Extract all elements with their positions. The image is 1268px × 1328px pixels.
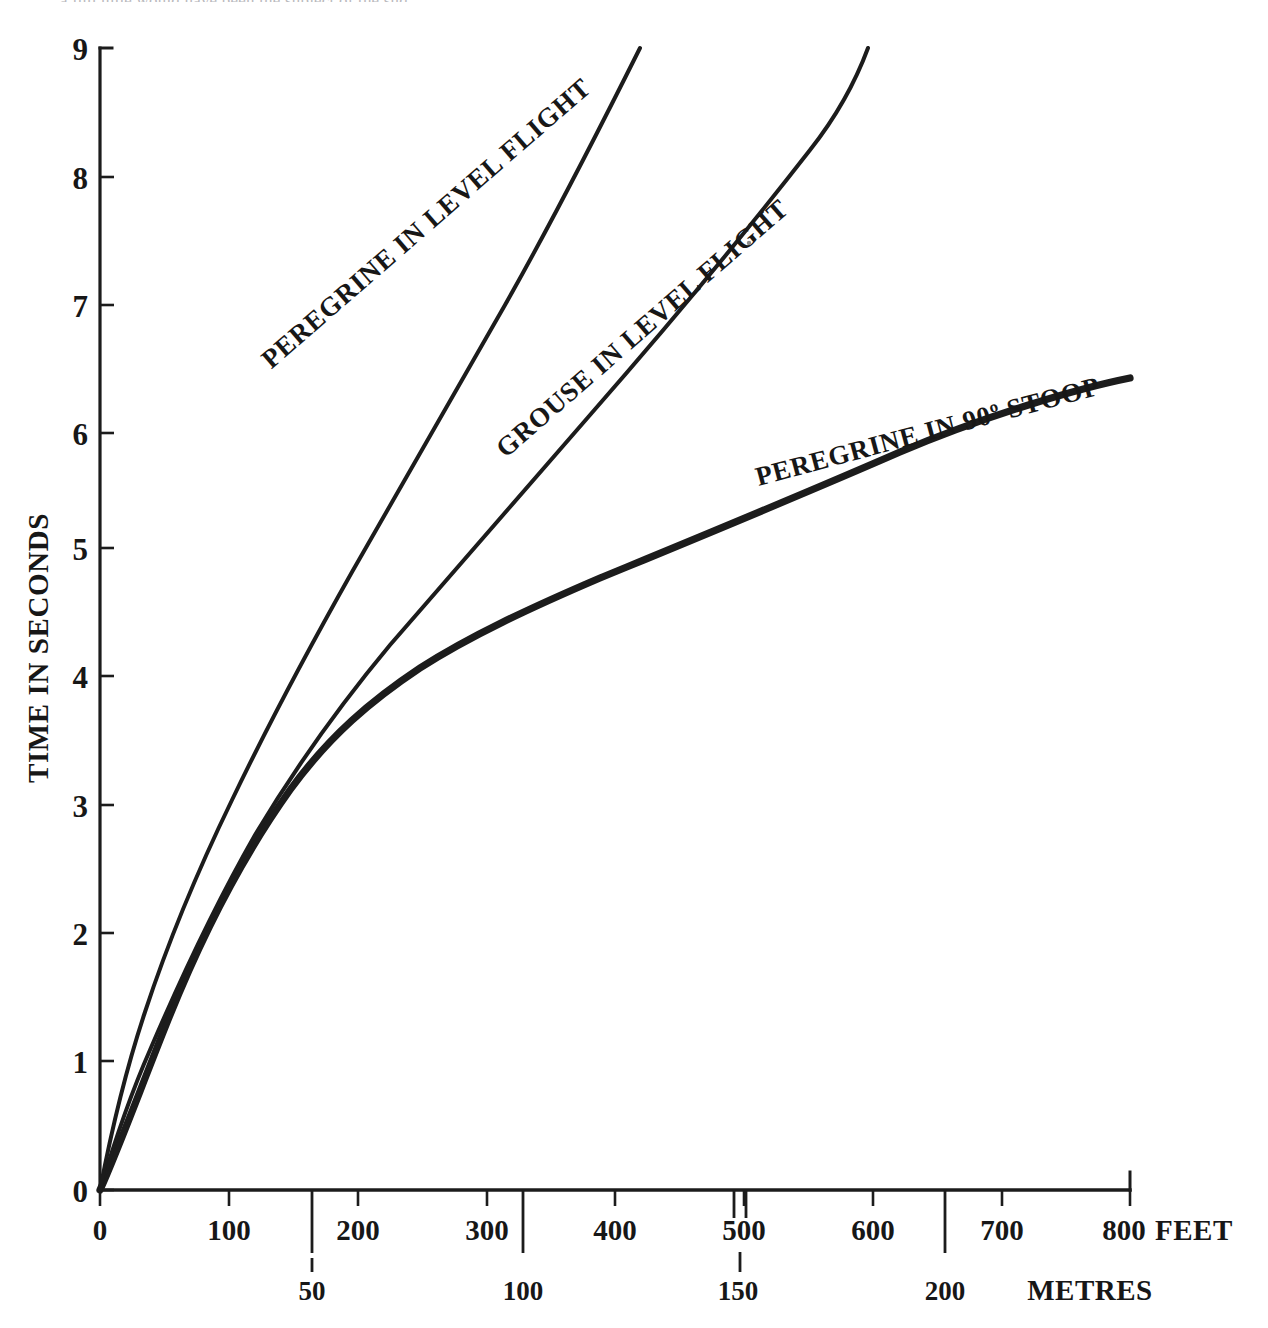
y-tick-label-5: 5	[73, 532, 89, 567]
y-tick-label-0: 0	[73, 1174, 89, 1209]
x-axis-unit-feet: FEET	[1155, 1214, 1233, 1246]
x-tick-labels-feet: 0 100 200 300 400 500 600 700 800 FEET	[93, 1214, 1233, 1246]
y-axis-title: TIME IN SECONDS	[22, 513, 54, 783]
y-tick-label-1: 1	[73, 1045, 89, 1080]
x-axis-unit-metres: METRES	[1027, 1274, 1152, 1306]
y-tick-label-9: 9	[73, 32, 89, 67]
curve-peregrine-level-flight	[100, 48, 640, 1190]
y-tick-label-6: 6	[73, 417, 89, 452]
y-ticks	[100, 177, 114, 1190]
series-label-peregrine-level-flight: PEREGRINE IN LEVEL FLIGHT	[256, 72, 597, 374]
chart-page: a full mile would have been the subject …	[0, 0, 1268, 1328]
axis-group	[100, 48, 1130, 1190]
x-tick-label-metres-50: 50	[299, 1276, 326, 1306]
y-tick-labels: 0 1 2 3 4 5 6 7 8 9	[73, 32, 89, 1209]
y-tick-label-2: 2	[73, 917, 89, 952]
x-tick-label-feet-400: 400	[593, 1214, 637, 1246]
y-tick-label-8: 8	[73, 161, 89, 196]
line-chart: 0 1 2 3 4 5 6 7 8 9 TIME IN SECONDS	[0, 0, 1268, 1328]
y-tick-label-3: 3	[73, 789, 89, 824]
x-tick-label-feet-200: 200	[336, 1214, 380, 1246]
x-tick-label-feet-700: 700	[980, 1214, 1024, 1246]
x-tick-label-feet-600: 600	[851, 1214, 895, 1246]
x-tick-label-metres-150: 150	[718, 1276, 759, 1306]
series-label-peregrine-stoop-group: PEREGRINE IN 90º STOOP	[752, 371, 1103, 492]
x-tick-labels-metres: 50 100 150 200 METRES	[299, 1274, 1153, 1306]
y-tick-label-7: 7	[73, 289, 89, 324]
scan-speck	[747, 241, 751, 245]
x-tick-label-metres-200: 200	[925, 1276, 966, 1306]
x-tick-label-feet-300: 300	[465, 1214, 509, 1246]
series-label-peregrine-stoop: PEREGRINE IN 90º STOOP	[752, 371, 1103, 492]
curve-peregrine-stoop	[100, 378, 1130, 1190]
x-tick-label-feet-0: 0	[93, 1214, 108, 1246]
y-tick-label-4: 4	[73, 660, 89, 695]
x-tick-label-feet-800: 800	[1102, 1214, 1146, 1246]
x-tick-label-metres-100: 100	[503, 1276, 544, 1306]
x-tick-label-feet-100: 100	[207, 1214, 251, 1246]
x-tick-label-feet-500: 500	[722, 1214, 766, 1246]
series-label-grouse-level-flight: GROUSE IN LEVEL FLIGHT	[490, 193, 794, 463]
x-ticks-feet	[100, 1190, 1130, 1206]
